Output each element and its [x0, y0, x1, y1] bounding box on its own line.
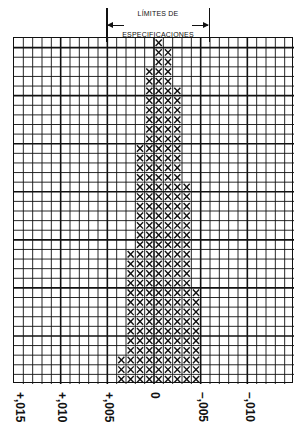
tally-x-mark [146, 328, 152, 334]
tally-x-mark [146, 213, 152, 219]
tally-x-mark [128, 270, 134, 276]
tally-x-mark [156, 126, 162, 132]
tally-x-mark [137, 357, 143, 363]
tally-x-mark [146, 193, 152, 199]
tally-x-mark [165, 59, 171, 65]
tally-x-mark [128, 280, 134, 286]
tally-x-mark [165, 213, 171, 219]
tally-x-mark [156, 165, 162, 171]
tally-x-mark [146, 126, 152, 132]
tally-x-mark [184, 261, 190, 267]
tally-x-mark [165, 261, 171, 267]
tally-x-mark [156, 261, 162, 267]
tally-x-mark [137, 299, 143, 305]
tally-x-mark [156, 97, 162, 103]
tally-x-mark [184, 251, 190, 257]
tally-x-mark [146, 357, 152, 363]
tally-x-mark [165, 289, 171, 295]
tally-x-mark [156, 241, 162, 247]
tally-x-mark [156, 145, 162, 151]
tally-x-mark [193, 376, 199, 382]
tally-x-mark [146, 261, 152, 267]
tally-x-mark [193, 328, 199, 334]
tally-x-mark [174, 251, 180, 257]
tally-x-mark [156, 40, 162, 46]
tally-x-mark [137, 318, 143, 324]
tally-x-mark [165, 241, 171, 247]
tally-x-mark [146, 270, 152, 276]
tally-x-mark [184, 357, 190, 363]
tally-x-mark [174, 88, 180, 94]
tally-x-mark [146, 347, 152, 353]
tally-x-mark [165, 174, 171, 180]
tally-x-mark [193, 338, 199, 344]
tally-x-mark [156, 203, 162, 209]
tally-x-mark [165, 338, 171, 344]
tally-chart-grid [13, 37, 293, 383]
tally-x-mark [146, 251, 152, 257]
arrow-right-icon [192, 25, 208, 26]
tally-x-mark [165, 309, 171, 315]
tally-x-mark [156, 88, 162, 94]
tally-x-mark [137, 232, 143, 238]
tally-x-mark [137, 222, 143, 228]
tally-x-mark [137, 366, 143, 372]
tally-x-mark [165, 78, 171, 84]
tally-x-mark [128, 261, 134, 267]
tally-x-mark [174, 309, 180, 315]
tally-x-mark [174, 241, 180, 247]
tally-x-mark [174, 165, 180, 171]
tally-x-mark [165, 116, 171, 122]
tally-x-mark [156, 251, 162, 257]
tally-x-mark [174, 97, 180, 103]
tally-x-mark [137, 289, 143, 295]
tally-x-mark [184, 213, 190, 219]
tally-x-mark [128, 289, 134, 295]
tally-x-mark [156, 184, 162, 190]
tally-x-mark [146, 222, 152, 228]
tally-x-mark [165, 107, 171, 113]
tally-x-mark [137, 338, 143, 344]
tally-x-mark [128, 299, 134, 305]
x-tick-text: –,005 [196, 392, 210, 422]
tally-x-mark [165, 193, 171, 199]
tally-x-mark [128, 251, 134, 257]
tally-x-mark [137, 376, 143, 382]
tally-x-mark [184, 328, 190, 334]
tally-x-mark [184, 193, 190, 199]
tally-x-mark [137, 155, 143, 161]
tally-x-mark [146, 88, 152, 94]
tally-x-mark [165, 299, 171, 305]
tally-x-mark [165, 155, 171, 161]
tally-x-mark [146, 78, 152, 84]
tally-x-mark [174, 116, 180, 122]
tally-x-mark [156, 280, 162, 286]
tally-x-mark [165, 328, 171, 334]
tally-x-mark [118, 357, 124, 363]
tally-x-mark [137, 251, 143, 257]
tally-x-mark [128, 376, 134, 382]
tally-x-mark [165, 232, 171, 238]
tally-x-mark [165, 203, 171, 209]
tally-x-mark [146, 165, 152, 171]
tally-x-mark [174, 328, 180, 334]
tally-x-mark [146, 116, 152, 122]
tally-x-mark [184, 318, 190, 324]
tally-x-mark [156, 299, 162, 305]
tally-x-mark [174, 155, 180, 161]
tally-x-mark [174, 193, 180, 199]
tally-x-mark [146, 145, 152, 151]
tally-x-mark [137, 270, 143, 276]
tally-x-mark [184, 270, 190, 276]
grid-and-marks [14, 38, 294, 384]
tally-x-mark [184, 347, 190, 353]
tally-x-mark [165, 251, 171, 257]
tally-x-mark [165, 347, 171, 353]
tally-x-mark [146, 97, 152, 103]
tally-x-mark [137, 309, 143, 315]
tally-x-mark [174, 376, 180, 382]
tally-x-mark [156, 328, 162, 334]
tally-x-mark [146, 203, 152, 209]
tally-x-mark [156, 193, 162, 199]
tally-x-mark [146, 280, 152, 286]
